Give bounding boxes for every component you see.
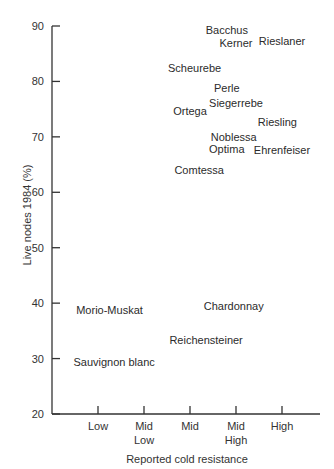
y-tick-label: 60 <box>32 186 44 198</box>
data-point-label: Riesling <box>258 116 297 128</box>
data-point-label: Sauvignon blanc <box>73 356 154 368</box>
data-point-label: Perle <box>214 82 240 94</box>
x-tick-label: Low <box>88 419 108 433</box>
y-tick-label: 50 <box>32 242 44 254</box>
data-point-label: Morio-Muskat <box>76 304 143 316</box>
data-point-label: Rieslaner <box>259 35 305 47</box>
data-point-label: Chardonnay <box>204 300 264 312</box>
data-point-label: Ortega <box>173 105 207 117</box>
x-tick-label: MidHigh <box>225 419 248 447</box>
x-tick-label: MidLow <box>134 419 154 447</box>
y-tick-label: 70 <box>32 131 44 143</box>
data-point-label: Reichensteiner <box>169 334 242 346</box>
data-point-label: Bacchus <box>206 24 248 36</box>
y-tick-label: 80 <box>32 75 44 87</box>
data-point-label: Ehrenfeiser <box>254 144 310 156</box>
data-point-label: Optima <box>209 143 244 155</box>
data-point-label: Noblessa <box>211 131 257 143</box>
data-point-label: Comtessa <box>174 164 224 176</box>
y-tick-label: 30 <box>32 353 44 365</box>
y-tick-label: 40 <box>32 297 44 309</box>
data-point-label: Kerner <box>219 37 252 49</box>
x-tick-label: Mid <box>181 419 199 433</box>
y-tick-label: 90 <box>32 20 44 32</box>
y-tick-label: 20 <box>32 408 44 420</box>
data-point-label: Scheurebe <box>168 62 221 74</box>
data-point-label: Siegerrebe <box>209 97 263 109</box>
y-axis-title: Live nodes 1984 (%) <box>21 165 33 266</box>
x-tick-label: High <box>271 419 294 433</box>
x-axis-title: Reported cold resistance <box>126 453 248 465</box>
